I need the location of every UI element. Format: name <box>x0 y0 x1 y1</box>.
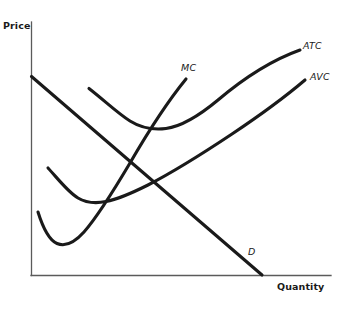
mc-curve <box>38 79 186 245</box>
mc-curve-label: MC <box>181 62 196 73</box>
x-axis-title: Quantity <box>277 281 325 292</box>
y-axis-title: Price <box>3 20 30 31</box>
avc-curve <box>48 80 305 203</box>
chart-canvas: Price Quantity MC ATC AVC D <box>0 0 344 311</box>
cost-curves-chart: Price Quantity MC ATC AVC D <box>0 0 344 311</box>
atc-curve-label: ATC <box>302 40 322 51</box>
demand-curve-label: D <box>248 246 256 257</box>
avc-curve-label: AVC <box>309 71 330 82</box>
